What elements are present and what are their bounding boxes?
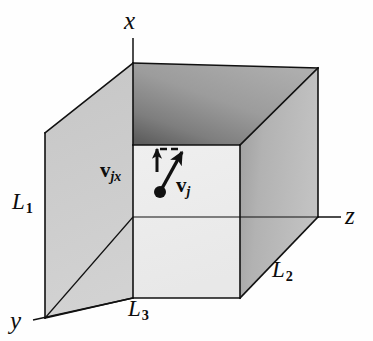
L2-subscript: 2 — [286, 268, 293, 284]
vector-vjx-label: vjx — [100, 160, 121, 181]
vjx-symbol: v — [100, 158, 111, 182]
L2-symbol: L — [272, 257, 285, 282]
physics-diagram-box-with-velocity-vector: x y z L1 L2 L3 vjx vj — [0, 0, 373, 341]
box-front-face — [133, 145, 240, 298]
vjx-subscript: jx — [111, 169, 122, 184]
box-left-face — [45, 63, 133, 318]
L1-subscript: 1 — [26, 200, 33, 216]
z-axis-label: z — [345, 203, 355, 228]
diagram-canvas — [0, 0, 373, 341]
box-height-label: L1 — [12, 190, 32, 213]
vector-vj-label: vj — [176, 175, 190, 196]
vj-subscript: j — [187, 184, 191, 199]
box-depth-label: L2 — [272, 258, 292, 281]
box-width-label: L3 — [128, 297, 148, 320]
L1-symbol: L — [12, 189, 25, 214]
x-axis-label: x — [124, 8, 135, 33]
vj-symbol: v — [176, 173, 187, 197]
L3-subscript: 3 — [142, 307, 149, 323]
L3-symbol: L — [128, 296, 141, 321]
y-axis-label: y — [10, 308, 21, 333]
